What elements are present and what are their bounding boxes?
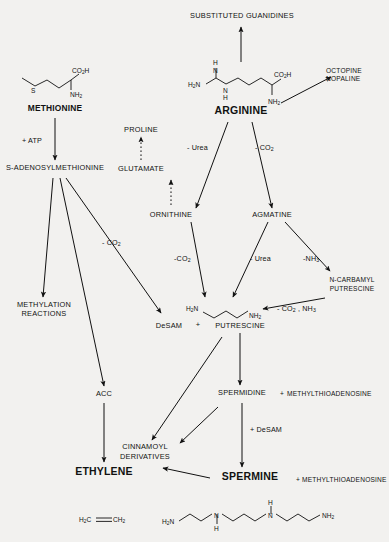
node-spermine: SPERMINE [210, 471, 290, 483]
node-glutamate: GLUTAMATE [112, 165, 170, 173]
svg-text:H: H [214, 525, 219, 532]
node-methionine: METHIONINE [5, 104, 105, 113]
ethylene-skeletal-structure [96, 518, 112, 521]
node-ethylene: ETHYLENE [62, 466, 146, 478]
plus-sign-spermidine-mta: + [277, 390, 287, 397]
edge-label-urea-arginine-ornithine: - Urea [187, 143, 208, 152]
svg-text:H2N: H2N [162, 518, 174, 526]
svg-text:N: N [214, 512, 219, 519]
spermine-skeletal-structure [179, 506, 320, 524]
node-cinnamoyl-derivatives-line2: DERIVATIVES [108, 453, 182, 461]
node-proline: PROLINE [112, 126, 170, 134]
node-s-adenosylmethionine: S-ADENOSYLMETHIONINE [2, 164, 108, 172]
edge-label-co2-ornithine-putrescine: -CO2 [174, 254, 191, 263]
plus-sign-putrescine: + [192, 321, 204, 329]
svg-text:NH2: NH2 [322, 512, 335, 520]
svg-text:H: H [223, 94, 228, 101]
svg-text:CH2: CH2 [113, 516, 126, 524]
svg-text:S: S [31, 87, 36, 94]
node-ornithine: ORNITHINE [143, 211, 199, 219]
edge-label-desam-spermidine-spermine: + DeSAM [250, 425, 282, 434]
svg-text:CO2H: CO2H [72, 67, 90, 75]
node-desam: DeSAM [147, 322, 191, 330]
node-methylation-reactions-line2: REACTIONS [11, 310, 77, 318]
node-agmatine: AGMATINE [244, 211, 300, 219]
node-spermidine: SPERMIDINE [210, 389, 274, 397]
node-methylthioadenosine-spermidine: METHYLTHIOADENOSINE [287, 390, 387, 397]
svg-text:CO2H: CO2H [274, 71, 292, 79]
node-octopine: OCTOPINE [326, 67, 386, 74]
svg-text:NH2: NH2 [70, 91, 83, 99]
node-arginine: ARGININE [193, 105, 289, 117]
edge-label-co2-nh3-ncp-putrescine: - CO2 , NH3 [277, 304, 316, 313]
edge-label-co2-sam-desam: - CO2 [102, 238, 121, 247]
edge-label-atp: + ATP [22, 136, 42, 145]
svg-text:H: H [213, 59, 218, 66]
node-substituted-guanidines: SUBSTITUTED GUANIDINES [186, 12, 298, 20]
svg-text:N: N [213, 67, 218, 74]
svg-text:NH2: NH2 [249, 312, 262, 320]
svg-text:H2C: H2C [79, 516, 91, 524]
svg-text:H2N: H2N [186, 305, 198, 313]
node-acc: ACC [87, 390, 121, 398]
edge-label-nh3-agmatine-ncp: -NH3 [303, 254, 319, 263]
node-nopaline: NOPALINE [326, 75, 386, 82]
edge-label-urea-agmatine-putrescine: - Urea [250, 254, 271, 263]
edge-label-co2-arginine-agmatine: - CO2 [255, 143, 274, 152]
node-n-carbamyl-putrescine-line1: N-CARBAMYL [318, 276, 386, 283]
node-n-carbamyl-putrescine-line2: PUTRESCINE [318, 285, 386, 292]
svg-text:H2N: H2N [188, 81, 200, 89]
svg-text:H: H [268, 499, 273, 506]
node-putrescine: PUTRESCINE [205, 322, 275, 330]
pathway-diagram: S CO2H NH2 H2N H N N H CO2H NH2 H2N NH2 [0, 0, 389, 542]
putrescine-skeletal-structure [203, 311, 248, 318]
node-cinnamoyl-derivatives-line1: CINNAMOYL [108, 443, 182, 451]
svg-text:N: N [268, 512, 273, 519]
svg-text:N: N [223, 87, 228, 94]
node-methylthioadenosine-spermine: METHYLTHIOADENOSINE [302, 476, 389, 483]
